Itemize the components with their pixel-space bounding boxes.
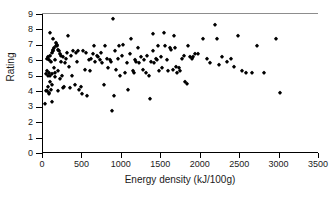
y-axis-title: Rating [6, 32, 16, 102]
data-point [244, 70, 249, 75]
data-point [111, 16, 116, 21]
x-tick-mark [200, 153, 201, 158]
x-tick-label: 0 [22, 160, 62, 169]
data-point [163, 44, 168, 49]
y-tick-label: 3 [17, 102, 33, 111]
data-point [129, 36, 134, 41]
y-tick-label: 1 [17, 133, 33, 142]
data-point [250, 70, 255, 75]
y-tick-label: 7 [17, 40, 33, 49]
scatter-chart: 0123456789 0500100015002000250030003500 … [0, 0, 335, 200]
data-point [195, 52, 200, 57]
data-point [49, 100, 54, 105]
x-tick-label: 1500 [140, 160, 180, 169]
data-point [85, 93, 90, 98]
y-tick-mark [36, 91, 42, 92]
data-point [208, 61, 213, 66]
data-point [124, 61, 129, 66]
data-point [173, 46, 178, 51]
data-point [126, 87, 131, 92]
data-point [66, 33, 71, 38]
data-point [63, 61, 68, 66]
data-point [70, 73, 75, 78]
y-tick-mark [36, 138, 42, 139]
data-point [75, 59, 80, 64]
data-point [109, 59, 114, 64]
x-tick-label: 2500 [219, 160, 259, 169]
data-point [201, 36, 206, 41]
data-point [52, 75, 57, 80]
data-point [147, 73, 152, 78]
y-tick-label: 5 [17, 71, 33, 80]
x-tick-mark [42, 153, 43, 158]
data-point [164, 58, 169, 63]
data-point [235, 33, 240, 38]
y-tick-label: 6 [17, 56, 33, 65]
data-point [113, 49, 118, 54]
data-point [131, 70, 136, 75]
data-point [239, 69, 244, 74]
y-tick-label: 9 [17, 10, 33, 19]
data-point [145, 53, 150, 58]
x-tick-label: 3500 [298, 160, 335, 169]
data-point [87, 69, 92, 74]
data-point [156, 44, 161, 49]
data-point [67, 64, 72, 69]
data-point [118, 73, 123, 78]
data-point [135, 46, 140, 51]
data-point [216, 63, 221, 68]
x-tick-mark [279, 153, 280, 158]
data-point [112, 93, 117, 98]
data-point [43, 101, 48, 106]
x-axis-title: Energy density (kJ/100g) [42, 175, 318, 185]
x-tick-label: 2000 [180, 160, 220, 169]
data-point [274, 36, 279, 41]
data-point [166, 69, 171, 74]
data-point [148, 97, 153, 102]
y-tick-label: 4 [17, 87, 33, 96]
data-point [255, 44, 260, 49]
y-tick-mark [36, 107, 42, 108]
data-point [92, 44, 97, 49]
data-point [123, 70, 128, 75]
x-tick-label: 500 [61, 160, 101, 169]
data-point [213, 22, 218, 27]
data-point [101, 83, 106, 88]
x-tick-label: 3000 [259, 160, 299, 169]
data-point [231, 64, 236, 69]
data-point [72, 83, 77, 88]
y-tick-label: 8 [17, 25, 33, 34]
y-tick-label: 0 [17, 149, 33, 158]
data-point [261, 70, 266, 75]
data-point [68, 86, 73, 91]
y-tick-mark [36, 29, 42, 30]
data-point [186, 44, 191, 49]
data-point [172, 33, 177, 38]
y-tick-mark [36, 76, 42, 77]
y-tick-mark [36, 60, 42, 61]
x-tick-mark [160, 153, 161, 158]
x-tick-mark [239, 153, 240, 158]
plot-area [42, 14, 318, 153]
data-point [137, 61, 142, 66]
y-tick-mark [36, 45, 42, 46]
data-point [151, 32, 156, 37]
data-point [110, 109, 115, 114]
data-point [219, 55, 224, 60]
data-point [278, 90, 283, 95]
data-point [161, 30, 166, 35]
data-point [48, 30, 53, 35]
data-point [84, 50, 89, 55]
data-point [229, 56, 234, 61]
data-point [56, 89, 61, 94]
data-point [127, 52, 132, 57]
data-point [80, 92, 85, 97]
data-point [100, 61, 105, 66]
data-point [214, 36, 219, 41]
data-point [82, 67, 87, 72]
data-point [121, 42, 126, 47]
data-point [142, 58, 147, 63]
data-point [106, 66, 111, 71]
x-tick-mark [81, 153, 82, 158]
x-tick-mark [121, 153, 122, 158]
